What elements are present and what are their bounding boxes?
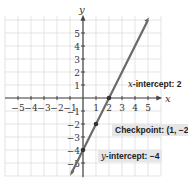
svg-text:−2: −2: [50, 103, 63, 113]
checkpoint-label: Checkpoint: (1, −2): [112, 124, 188, 136]
svg-text:−3: −3: [67, 133, 81, 143]
svg-text:−4: −4: [67, 146, 81, 156]
svg-text:5: 5: [145, 103, 151, 113]
x-intercept-label: x-intercept: 2: [125, 78, 184, 90]
svg-text:4: 4: [74, 42, 80, 52]
svg-text:−5: −5: [11, 103, 25, 113]
y-axis-label: y: [78, 4, 85, 15]
svg-text:2: 2: [74, 68, 80, 78]
svg-text:2: 2: [106, 103, 112, 113]
svg-text:−2: −2: [67, 120, 80, 130]
svg-text:1: 1: [93, 103, 99, 113]
svg-text:−4: −4: [24, 103, 38, 113]
y-intercept-label: y-intercept: −4: [98, 150, 162, 162]
x-intercept-text: -intercept: 2: [133, 79, 182, 89]
y-intercept-text: -intercept: −4: [106, 151, 160, 161]
checkpoint-text: Checkpoint: (1, −2): [115, 125, 188, 135]
x-axis-label: x: [165, 93, 171, 104]
svg-text:3: 3: [74, 55, 80, 65]
svg-text:−3: −3: [37, 103, 51, 113]
svg-text:1: 1: [74, 81, 80, 91]
svg-text:3: 3: [119, 103, 125, 113]
svg-text:4: 4: [132, 103, 138, 113]
svg-text:−1: −1: [67, 107, 80, 117]
svg-text:5: 5: [74, 29, 80, 39]
